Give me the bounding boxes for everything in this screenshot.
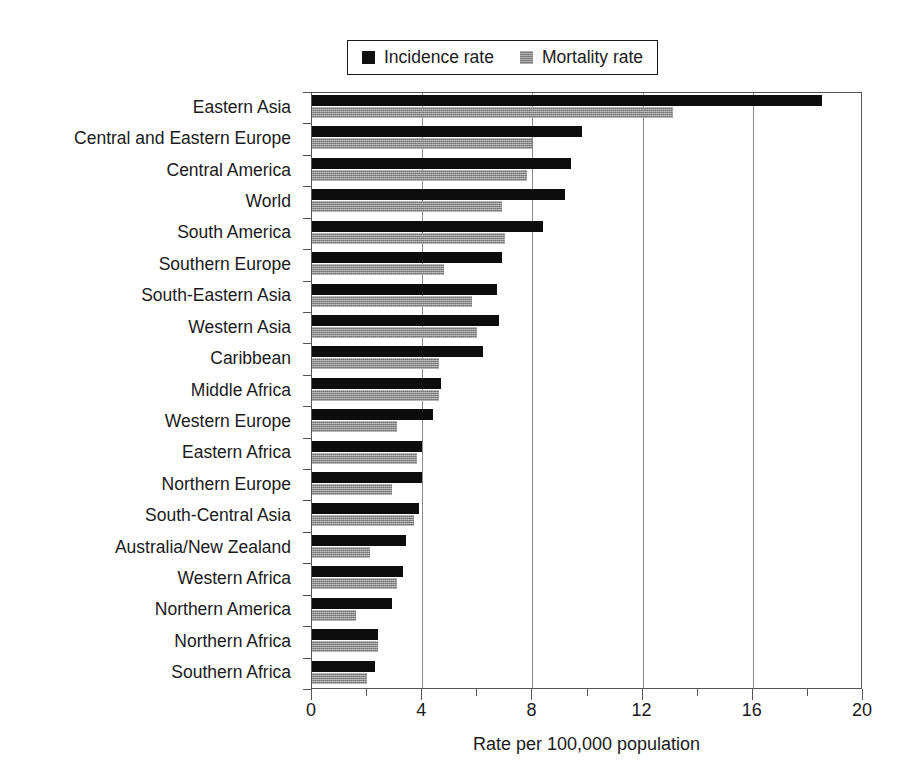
x-axis-tick-major bbox=[421, 689, 422, 700]
bar-mortality bbox=[312, 421, 397, 432]
legend-label-incidence: Incidence rate bbox=[384, 49, 494, 67]
x-axis-tick-label: 20 bbox=[852, 701, 872, 719]
bar-incidence bbox=[312, 629, 378, 640]
y-axis-label: Western Africa bbox=[178, 570, 291, 588]
bar-mortality bbox=[312, 610, 356, 621]
x-axis-tick-label: 8 bbox=[526, 701, 536, 719]
x-axis-tick-label: 0 bbox=[306, 701, 316, 719]
y-axis-label: Western Asia bbox=[188, 319, 291, 337]
y-axis-label: Caribbean bbox=[210, 350, 291, 368]
legend-swatch-incidence-icon bbox=[362, 51, 375, 64]
y-axis-label: Central America bbox=[167, 162, 292, 180]
y-axis-tick bbox=[303, 155, 311, 156]
bar-row bbox=[312, 470, 861, 501]
y-axis-tick bbox=[303, 626, 311, 627]
bar-row bbox=[312, 564, 861, 595]
bar-incidence bbox=[312, 566, 403, 577]
x-axis-tick-major bbox=[531, 689, 532, 700]
bar-row bbox=[312, 313, 861, 344]
y-axis-tick bbox=[303, 312, 311, 313]
y-axis-tick bbox=[303, 218, 311, 219]
y-axis-tick bbox=[303, 563, 311, 564]
x-axis-tick-minor bbox=[366, 689, 367, 696]
bar-row bbox=[312, 627, 861, 658]
legend-label-mortality: Mortality rate bbox=[542, 49, 643, 67]
bar-row bbox=[312, 439, 861, 470]
bar-mortality bbox=[312, 264, 444, 275]
bar-mortality bbox=[312, 107, 673, 118]
bar-incidence bbox=[312, 472, 422, 483]
y-axis-tick bbox=[303, 249, 311, 250]
x-axis-tick-major bbox=[752, 689, 753, 700]
x-axis-tick-minor bbox=[476, 689, 477, 696]
bar-mortality bbox=[312, 138, 532, 149]
bar-incidence bbox=[312, 284, 497, 295]
bar-mortality bbox=[312, 641, 378, 652]
bar-mortality bbox=[312, 515, 414, 526]
x-axis-tick-minor bbox=[587, 689, 588, 696]
bar-incidence bbox=[312, 441, 422, 452]
bar-mortality bbox=[312, 233, 505, 244]
y-axis-tick bbox=[303, 595, 311, 596]
y-axis-tick bbox=[303, 406, 311, 407]
y-axis-tick bbox=[303, 343, 311, 344]
y-axis-tick bbox=[303, 689, 311, 690]
legend-entry-mortality: Mortality rate bbox=[520, 49, 643, 67]
bar-incidence bbox=[312, 315, 499, 326]
bar-mortality bbox=[312, 484, 392, 495]
bar-incidence bbox=[312, 126, 582, 137]
x-axis-tick-minor bbox=[697, 689, 698, 696]
y-axis-tick bbox=[303, 658, 311, 659]
bar-mortality bbox=[312, 673, 367, 684]
x-axis-tick-major bbox=[862, 689, 863, 700]
chart-legend: Incidence rate Mortality rate bbox=[347, 40, 658, 75]
x-axis-ticks bbox=[311, 689, 862, 700]
x-axis-tick-label: 4 bbox=[416, 701, 426, 719]
x-axis-tick-major bbox=[311, 689, 312, 700]
bar-mortality bbox=[312, 578, 397, 589]
y-axis-label: World bbox=[246, 193, 291, 211]
y-axis-label: Central and Eastern Europe bbox=[74, 130, 291, 148]
y-axis-labels: Eastern AsiaCentral and Eastern EuropeCe… bbox=[0, 92, 305, 689]
y-axis-label: Australia/New Zealand bbox=[115, 539, 291, 557]
bar-row bbox=[312, 93, 861, 124]
bar-mortality bbox=[312, 453, 417, 464]
y-axis-label: Western Europe bbox=[165, 413, 291, 431]
bar-row bbox=[312, 187, 861, 218]
bar-row bbox=[312, 376, 861, 407]
bar-mortality bbox=[312, 296, 472, 307]
y-axis-label: Northern Africa bbox=[174, 633, 291, 651]
x-axis-tick-labels: 048121620 bbox=[311, 701, 862, 727]
y-axis-tick bbox=[303, 500, 311, 501]
bar-incidence bbox=[312, 598, 392, 609]
bar-incidence bbox=[312, 503, 419, 514]
x-axis-tick-major bbox=[642, 689, 643, 700]
legend-swatch-mortality-icon bbox=[520, 51, 533, 64]
bar-incidence bbox=[312, 346, 483, 357]
bar-row bbox=[312, 282, 861, 313]
y-axis-label: Eastern Africa bbox=[182, 444, 291, 462]
bar-incidence bbox=[312, 661, 375, 672]
bar-row bbox=[312, 344, 861, 375]
bar-incidence bbox=[312, 189, 565, 200]
y-axis-label: Southern Africa bbox=[171, 664, 291, 682]
bar-mortality bbox=[312, 327, 477, 338]
y-axis-tick bbox=[303, 438, 311, 439]
bar-row bbox=[312, 596, 861, 627]
bar-row bbox=[312, 533, 861, 564]
y-axis-label: South-Eastern Asia bbox=[141, 287, 291, 305]
bar-row bbox=[312, 156, 861, 187]
y-axis-tick bbox=[303, 281, 311, 282]
bar-incidence bbox=[312, 409, 433, 420]
y-axis-label: South America bbox=[177, 224, 291, 242]
y-axis-label: South-Central Asia bbox=[145, 507, 291, 525]
y-axis-label: Northern Europe bbox=[162, 476, 291, 494]
x-axis-tick-label: 16 bbox=[742, 701, 762, 719]
y-axis-label: Southern Europe bbox=[159, 256, 291, 274]
y-axis-tick bbox=[303, 123, 311, 124]
bar-row bbox=[312, 250, 861, 281]
y-axis-label: Eastern Asia bbox=[193, 99, 291, 117]
bar-incidence bbox=[312, 252, 502, 263]
bar-row bbox=[312, 219, 861, 250]
bar-row bbox=[312, 501, 861, 532]
